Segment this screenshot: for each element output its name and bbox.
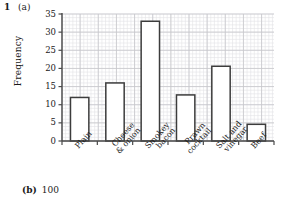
y-axis-title: Frequency [13, 25, 23, 97]
grid-minor-lines [62, 14, 274, 141]
y-axis-tick-label: 30 [40, 28, 56, 37]
bar [141, 21, 159, 141]
y-axis-tick-label: 20 [40, 64, 56, 73]
y-axis-tick-label: 35 [40, 10, 56, 19]
y-axis-tick-label: 5 [40, 118, 56, 127]
y-axis-tick-label: 0 [40, 137, 56, 146]
y-axis-tick-label: 15 [40, 82, 56, 91]
y-axis-tick-label: 10 [40, 100, 56, 109]
y-axis-tick-label: 25 [40, 46, 56, 55]
bar-chart: Frequency 05101520253035 PlainCheese& on… [0, 0, 283, 201]
grid-major-lines [62, 14, 274, 141]
